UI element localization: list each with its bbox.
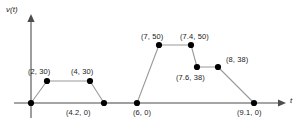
marker-2-30 [44, 78, 50, 84]
y-axis-arrowhead [27, 14, 34, 22]
marker-4p2-0 [101, 100, 107, 106]
marker-4-30 [87, 78, 93, 84]
point-label-9p1-0: (9.1, 0) [237, 109, 262, 117]
marker-0-0 [28, 100, 34, 106]
x-axis-label: t [290, 97, 292, 105]
marker-6-0 [134, 100, 140, 106]
point-label-7-50: (7, 50) [141, 33, 163, 41]
y-axis-label: v(t) [6, 6, 18, 14]
marker-7p4-50 [188, 42, 194, 48]
data-point-markers [28, 42, 257, 106]
marker-8-38 [215, 64, 221, 70]
point-label-2-30: (2, 30) [28, 68, 50, 76]
point-label-8-38: (8, 38) [226, 56, 248, 64]
point-label-4p2-0: (4.2, 0) [66, 109, 91, 117]
point-label-7p6-38: (7.6, 38) [176, 74, 205, 82]
x-axis [14, 99, 286, 106]
x-axis-arrowhead [278, 99, 286, 106]
velocity-curve [31, 45, 254, 103]
point-label-4-30: (4, 30) [71, 68, 93, 76]
marker-7p6-38 [194, 64, 200, 70]
point-label-6-0: (6, 0) [133, 109, 151, 117]
point-label-7p4-50: (7.4, 50) [180, 33, 209, 41]
velocity-time-chart: v(t) t (2, 30) (4, 30) (4.2, 0) (6, 0) (… [0, 0, 300, 134]
marker-9p1-0 [251, 100, 257, 106]
marker-7-50 [156, 42, 162, 48]
